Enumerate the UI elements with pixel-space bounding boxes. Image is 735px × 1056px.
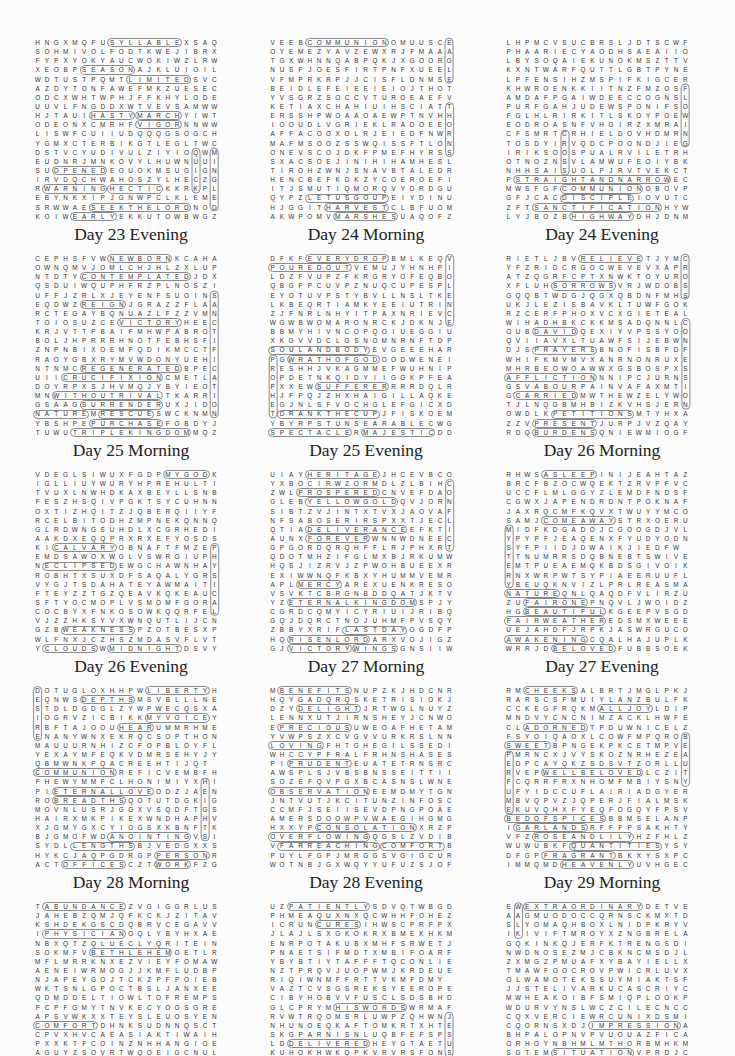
grid-letter: F (126, 281, 135, 290)
grid-letter: L (154, 309, 163, 318)
grid-letter: T (606, 851, 615, 860)
grid-letter: U (407, 364, 416, 373)
grid-letter: R (426, 148, 435, 157)
grid-letter: A (200, 957, 209, 966)
grid-letter: S (407, 695, 416, 704)
grid-letter: J (389, 263, 398, 272)
grid-letter: F (70, 948, 79, 957)
grid-letter: L (79, 984, 88, 993)
grid-letter: S (163, 166, 172, 175)
grid-letter: A (342, 56, 351, 65)
grid-letter: M (643, 428, 652, 437)
grid-letter: N (314, 56, 323, 65)
grid-letter: R (126, 732, 135, 741)
grid-letter: L (513, 723, 522, 732)
grid-letter: Q (117, 589, 126, 598)
grid-letter: K (550, 580, 559, 589)
grid-letter: S (154, 497, 163, 506)
grid-letter: O (314, 65, 323, 74)
grid-letter: D (296, 616, 305, 625)
grid-letter: C (445, 759, 454, 768)
grid-letter: H (163, 644, 172, 653)
grid-letter: A (42, 814, 51, 823)
grid-letter: I (634, 543, 643, 552)
grid-letter: N (210, 166, 219, 175)
grid-letter: R (569, 129, 578, 138)
grid-letter: L (426, 732, 435, 741)
grid-letter: T (145, 139, 154, 148)
grid-letter: E (200, 543, 209, 552)
grid-letter: Q (625, 993, 634, 1002)
grid-letter: M (268, 686, 277, 695)
grid-letter: M (135, 635, 144, 644)
grid-letter: E (361, 203, 370, 212)
grid-letter: I (634, 148, 643, 157)
grid-letter: A (154, 635, 163, 644)
grid-letter: N (182, 984, 191, 993)
grid-letter: R (532, 507, 541, 516)
grid-letter: C (191, 345, 200, 354)
grid-letter: N (89, 732, 98, 741)
grid-letter: O (98, 516, 107, 525)
grid-letter: F (126, 470, 135, 479)
grid-letter: H (324, 355, 333, 364)
grid-letter: L (398, 832, 407, 841)
grid-letter: N (606, 552, 615, 561)
grid-letter: V (417, 571, 426, 580)
grid-letter: H (172, 111, 181, 120)
grid-letter: L (163, 263, 172, 272)
grid-letter: G (616, 525, 625, 534)
grid-letter: N (126, 193, 135, 202)
grid-letter: M (398, 975, 407, 984)
grid-letter: E (324, 157, 333, 166)
grid-letter: M (569, 695, 578, 704)
grid-letter: B (389, 254, 398, 263)
grid-letter: M (513, 561, 522, 570)
grid-letter: W (681, 111, 690, 120)
grid-letter: E (342, 920, 351, 929)
grid-letter: G (98, 841, 107, 850)
grid-letter: I (435, 832, 444, 841)
letter-grid: RMCHEEKSALBRTJMGLPKJRARSCSFMUIYLANZBULFK… (504, 686, 700, 869)
grid-letter: W (504, 644, 513, 653)
grid-letter: C (52, 561, 61, 570)
grid-letter: A (287, 470, 296, 479)
grid-letter: R (653, 1048, 662, 1056)
grid-letter: M (154, 166, 163, 175)
grid-letter: F (135, 93, 144, 102)
grid-letter: D (361, 1039, 370, 1048)
grid-letter: G (616, 607, 625, 616)
grid-letter: S (523, 129, 532, 138)
grid-letter: E (70, 787, 79, 796)
grid-letter: F (634, 382, 643, 391)
grid-letter: D (380, 479, 389, 488)
grid-letter: S (398, 139, 407, 148)
grid-letter: K (681, 561, 690, 570)
grid-letter: X (578, 732, 587, 741)
grid-letter: I (191, 580, 200, 589)
grid-letter: Y (662, 157, 671, 166)
grid-letter: Q (417, 212, 426, 221)
grid-letter: W (541, 768, 550, 777)
letter-grid: LHPMCVSUCBRSLJDTSCWFPHAARIECYAODHSAEAIIO… (504, 38, 700, 221)
grid-letter: Q (513, 1012, 522, 1021)
grid-letter: C (578, 318, 587, 327)
grid-letter: L (616, 193, 625, 202)
grid-letter: A (681, 929, 690, 938)
grid-letter: R (417, 580, 426, 589)
grid-letter: H (163, 93, 172, 102)
grid-letter: O (588, 281, 597, 290)
grid-letter: X (389, 635, 398, 644)
grid-letter: H (352, 102, 361, 111)
grid-letter: X (606, 291, 615, 300)
grid-letter: I (79, 929, 88, 938)
grid-letter: T (634, 166, 643, 175)
grid-letter: J (417, 497, 426, 506)
grid-letter: C (287, 1003, 296, 1012)
grid-letter: O (296, 479, 305, 488)
grid-letter: U (70, 644, 79, 653)
grid-letter: S (117, 860, 126, 869)
grid-letter: S (662, 580, 671, 589)
grid-letter: T (135, 47, 144, 56)
grid-letter: E (126, 589, 135, 598)
